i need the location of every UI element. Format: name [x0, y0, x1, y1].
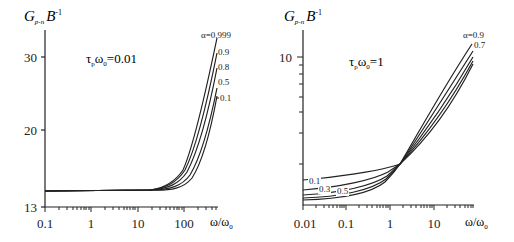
left-xticks: [45, 207, 216, 212]
right-yticks: [297, 57, 303, 164]
curve-alpha-0.5: [45, 88, 217, 191]
right-label-0.3: 0.3: [319, 184, 331, 194]
curve-alpha-0.1: [303, 64, 473, 180]
right-xticks: [303, 205, 473, 210]
curve-alpha-0.7: [303, 51, 473, 198]
left-label-alpha-0.999: α=0.999: [201, 30, 232, 40]
curve-alpha-0.5: [303, 57, 473, 195]
right-annotation: τpω0=1: [349, 54, 384, 71]
left-xtick-0.1: 0.1: [37, 216, 53, 231]
right-xtick-0.01: 0.01: [294, 216, 317, 231]
right-xlabel: ω/ω0: [465, 215, 488, 231]
left-xlabel: ω/ω0: [210, 215, 233, 231]
left-ytick-20: 20: [24, 123, 37, 138]
left-label-0.9: 0.9: [218, 47, 230, 57]
right-label-alpha-0.9: α=0.9: [463, 30, 485, 40]
left-chart: Gp-nB-1 30 20 13 0.1 1 10 100 ω/ω0 τpω0: [24, 8, 233, 231]
curve-alpha-0.3: [303, 61, 473, 190]
left-xtick-1: 1: [88, 216, 95, 231]
right-ylabel: Gp-nB-1: [284, 8, 322, 26]
right-chart: Gp-nB-1 10 0.01 0.1 1 10: [279, 8, 488, 231]
left-xtick-100: 100: [174, 216, 194, 231]
right-xtick-1: 1: [387, 216, 394, 231]
curve-alpha-0.9: [303, 44, 472, 200]
right-xtick-0.1: 0.1: [338, 216, 354, 231]
figure: Gp-nB-1 30 20 13 0.1 1 10 100 ω/ω0 τpω0: [0, 0, 514, 242]
right-label-0.7: 0.7: [474, 40, 486, 50]
curve-alpha-0.1: [45, 96, 217, 191]
left-ylabel: Gp-nB-1: [24, 8, 62, 26]
curve-alpha-0.9: [45, 53, 217, 191]
left-ytick-13: 13: [24, 200, 37, 215]
left-label-0.8: 0.8: [218, 62, 230, 72]
right-ytick-10: 10: [279, 50, 292, 65]
left-label-0.1: 0.1: [220, 93, 231, 103]
left-ytick-30: 30: [24, 50, 37, 65]
left-label-0.5: 0.5: [218, 77, 230, 87]
left-annotation: τpω0=0.01: [86, 51, 137, 68]
left-xtick-10: 10: [132, 216, 145, 231]
right-curves: [303, 44, 473, 200]
right-xtick-10: 10: [428, 216, 441, 231]
right-label-0.5: 0.5: [337, 186, 349, 196]
